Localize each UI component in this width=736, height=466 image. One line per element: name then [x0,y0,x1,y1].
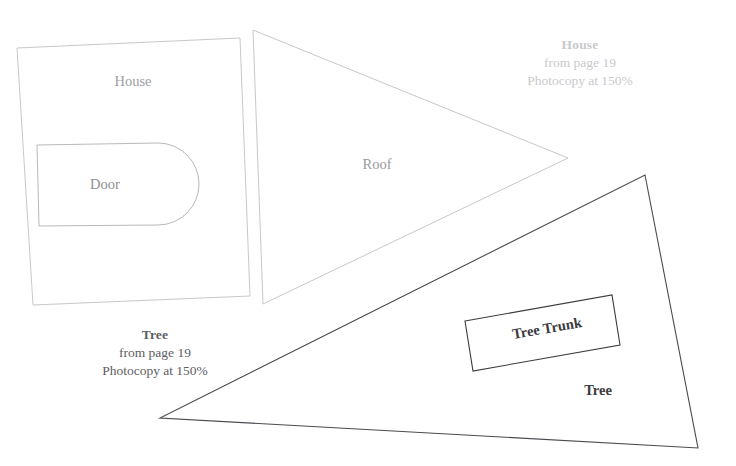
pattern-sheet: House Door Roof Tree Trunk Tree House fr… [0,0,736,466]
tree-caption-source: from page 19 [60,344,250,362]
door-shape-label: Door [55,176,155,193]
house-caption-source: from page 19 [500,54,660,72]
house-caption-title: House [500,36,660,54]
tree-caption-block: Tree from page 19 Photocopy at 150% [60,326,250,380]
tree-caption-instruction: Photocopy at 150% [60,362,250,380]
tree-shape-label: Tree [553,382,643,399]
tree-caption-title: Tree [60,326,250,344]
house-shape-label: House [83,73,183,90]
house-caption-block: House from page 19 Photocopy at 150% [500,36,660,90]
house-caption-instruction: Photocopy at 150% [500,72,660,90]
roof-shape-label: Roof [327,156,427,173]
